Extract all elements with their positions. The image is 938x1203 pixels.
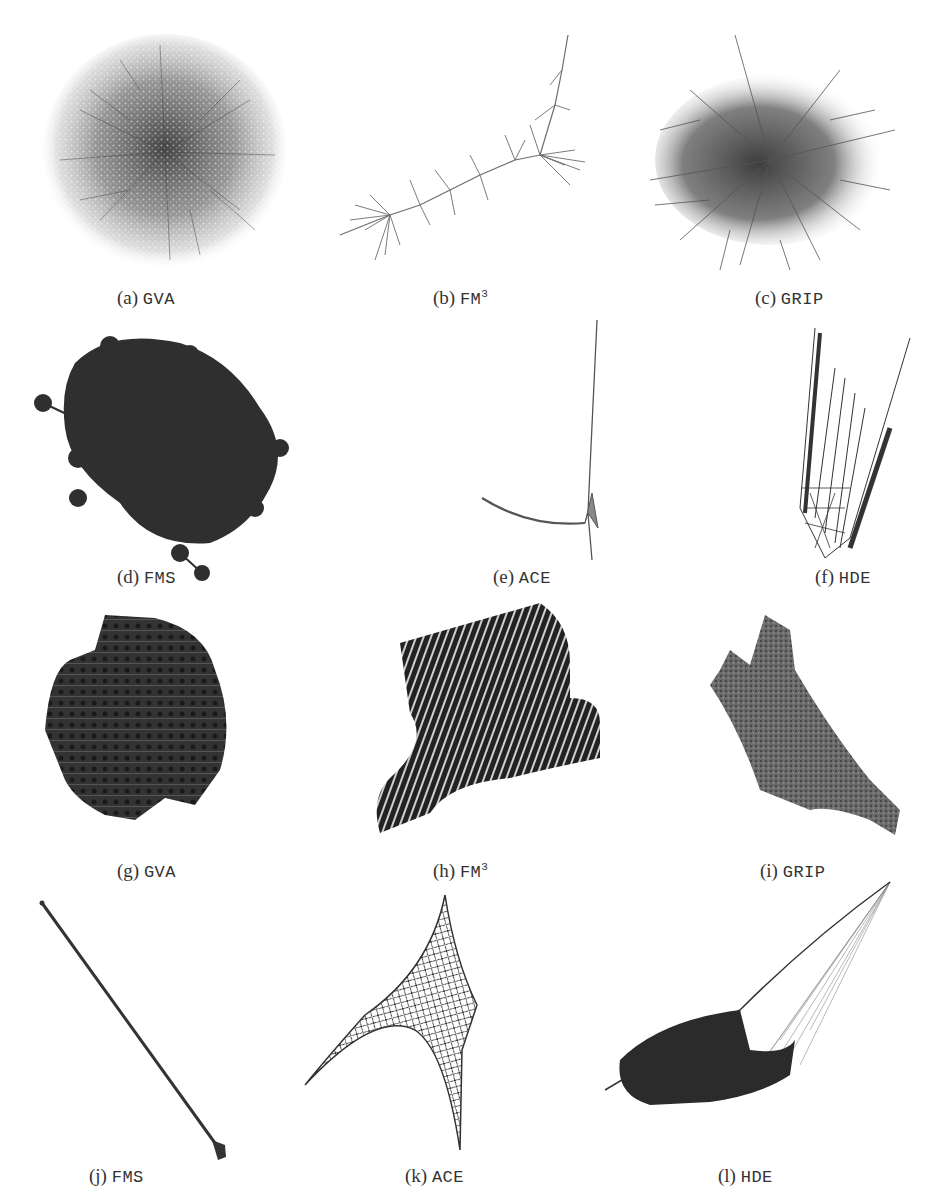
panel-c-grip-drawing xyxy=(640,30,910,275)
caption-g: (g) GVA xyxy=(117,860,176,882)
caption-l: (l) HDE xyxy=(718,1165,773,1187)
caption-j: (j) FMS xyxy=(89,1165,144,1187)
caption-h: (h) FM3 xyxy=(433,860,488,882)
panel-h-fm3-drawing xyxy=(370,603,615,838)
caption-k: (k) ACE xyxy=(405,1165,464,1187)
graph-drawing-thin-curves xyxy=(470,318,610,563)
graph-drawing-mesh-blob xyxy=(45,610,305,835)
graph-drawing-parabolic-lines xyxy=(790,318,920,563)
caption-d: (d) FMS xyxy=(117,566,176,588)
caption-f: (f) HDE xyxy=(815,566,871,588)
graph-drawing-branching-tree xyxy=(330,30,610,275)
graph-drawing-diagonal-line xyxy=(30,895,240,1165)
graph-drawing-textured-sheet xyxy=(680,610,920,835)
graph-drawing-dense-cluster xyxy=(640,30,910,275)
panel-k-ace-drawing xyxy=(305,890,530,1155)
graph-drawing-comet-shape xyxy=(600,880,900,1110)
caption-e: (e) ACE xyxy=(493,566,551,588)
panel-a-gva-drawing xyxy=(40,30,290,275)
caption-a: (a) GVA xyxy=(117,287,175,309)
caption-c: (c) GRIP xyxy=(755,287,824,309)
panel-d-fms-drawing xyxy=(30,318,290,563)
caption-i: (i) GRIP xyxy=(760,860,826,882)
panel-f-hde-drawing xyxy=(790,318,920,563)
panel-b-fm3-drawing xyxy=(330,30,610,275)
panel-i-grip-drawing xyxy=(680,610,920,835)
caption-b: (b) FM3 xyxy=(433,287,488,309)
panel-g-gva-drawing xyxy=(45,610,305,835)
panel-l-hde-drawing xyxy=(600,880,900,1110)
graph-drawing-striped-mesh xyxy=(370,603,615,838)
panel-j-fms-drawing xyxy=(30,895,240,1165)
graph-drawing-cloud xyxy=(40,30,290,275)
panel-e-ace-drawing xyxy=(470,318,610,563)
graph-drawing-blob-of-nodes xyxy=(30,318,290,563)
graph-drawing-saddle-mesh xyxy=(305,890,530,1155)
